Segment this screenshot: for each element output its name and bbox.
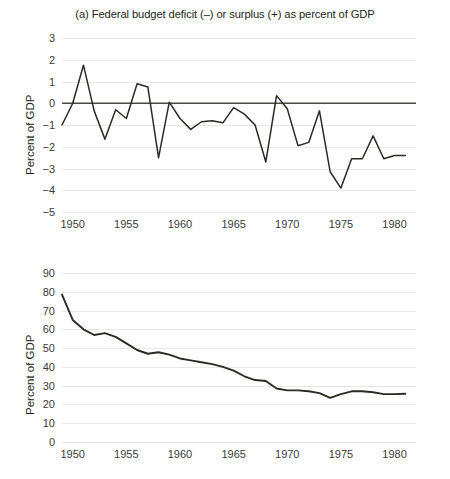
x-tick-label: 1975 [329,448,353,460]
x-tick-label: 1980 [382,218,406,230]
y-tick-label: 2 [49,54,55,66]
y-tick-label: −2 [42,141,55,153]
x-tick-label: 1950 [60,448,84,460]
y-tick-label: −3 [42,163,55,175]
x-tick-label: 1980 [382,448,406,460]
chart-panel-a: (a) Federal budget deficit (–) or surplu… [0,0,450,240]
x-tick-label: 1950 [60,218,84,230]
panel-a-plot-area: 3210−1−2−3−4−519501955196019651970197519… [0,0,450,240]
x-tick-label: 1970 [275,448,299,460]
y-tick-label: 3 [49,32,55,44]
x-tick-label: 1960 [168,218,192,230]
panel-b-plot-area: 9080706050403020100195019551960196519701… [0,240,450,479]
y-tick-label: 80 [43,286,55,298]
x-tick-label: 1970 [275,218,299,230]
y-tick-label: −5 [42,206,55,218]
y-tick-label: 1 [49,76,55,88]
y-tick-label: 40 [43,361,55,373]
x-tick-label: 1960 [168,448,192,460]
y-tick-label: 10 [43,417,55,429]
x-tick-label: 1975 [329,218,353,230]
x-tick-label: 1955 [114,448,138,460]
y-tick-label: −1 [42,119,55,131]
chart-panel-b: (b) National debt as percent of GDP Perc… [0,240,450,479]
figure-root: (a) Federal budget deficit (–) or surplu… [0,0,450,479]
y-tick-label: −4 [42,184,55,196]
y-tick-label: 90 [43,267,55,279]
data-series-line [62,295,405,398]
y-tick-label: 70 [43,305,55,317]
y-tick-label: 20 [43,398,55,410]
y-tick-label: 0 [49,436,55,448]
y-tick-label: 0 [49,97,55,109]
x-tick-label: 1965 [221,448,245,460]
x-tick-label: 1955 [114,218,138,230]
y-tick-label: 50 [43,342,55,354]
y-tick-label: 30 [43,380,55,392]
y-tick-label: 60 [43,323,55,335]
x-tick-label: 1965 [221,218,245,230]
